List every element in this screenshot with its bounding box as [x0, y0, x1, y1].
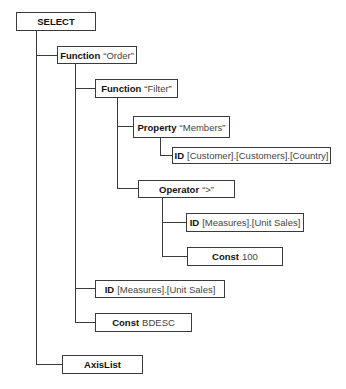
node-property-members: Property“Members”: [133, 116, 230, 138]
connector-filter-to-property: [117, 126, 133, 127]
node-const-bdesc: ConstBDESC: [95, 313, 192, 332]
connector-filter-to-operator: [117, 188, 138, 189]
connector-select-to-order: [36, 55, 57, 56]
node-keyword: Function: [101, 83, 141, 94]
connector-select-to-axislist: [36, 364, 62, 365]
node-function-order: Function“Order”: [57, 46, 137, 64]
node-select: SELECT: [16, 12, 96, 31]
connector-property-to-id: [160, 155, 172, 156]
connector-select-trunk: [36, 30, 37, 365]
node-keyword: Const: [112, 317, 139, 328]
node-keyword: ID: [190, 217, 200, 228]
connector-operator-to-id: [162, 222, 186, 223]
node-value: “Filter”: [144, 83, 171, 94]
connector-order-to-const-bdesc: [75, 322, 95, 323]
node-value: [Measures].[Unit Sales]: [202, 217, 300, 228]
node-keyword: Property: [138, 122, 177, 133]
node-keyword: ID: [105, 284, 115, 295]
node-value: “>”: [202, 184, 214, 195]
node-keyword: Const: [212, 251, 239, 262]
node-keyword: Function: [60, 50, 100, 61]
node-axislist: AxisList: [62, 355, 143, 374]
node-operator-gt: Operator“>”: [138, 180, 235, 198]
node-id-customer-country: ID[Customer].[Customers].[Country]: [172, 147, 331, 164]
node-const-100: Const100: [187, 247, 283, 266]
node-keyword: Operator: [159, 184, 199, 195]
node-value: “Members”: [180, 122, 226, 133]
connector-property-trunk: [160, 138, 161, 156]
connector-operator-to-const: [162, 256, 187, 257]
node-value: 100: [242, 251, 258, 262]
connector-order-trunk: [75, 63, 76, 323]
connector-order-to-filter: [75, 88, 95, 89]
node-keyword: AxisList: [84, 359, 121, 370]
connector-order-to-id-measures: [75, 288, 95, 289]
node-id-measures-unit-sales-2: ID[Measures].[Unit Sales]: [95, 280, 225, 298]
node-keyword: SELECT: [37, 16, 74, 27]
node-value: [Measures].[Unit Sales]: [117, 284, 215, 295]
connector-operator-trunk: [162, 197, 163, 257]
node-keyword: ID: [175, 150, 185, 161]
node-function-filter: Function“Filter”: [95, 79, 178, 98]
node-value: BDESC: [142, 317, 175, 328]
connector-filter-trunk: [117, 97, 118, 189]
node-value: [Customer].[Customers].[Country]: [187, 150, 328, 161]
node-value: “Order”: [103, 50, 134, 61]
node-id-measures-unit-sales-1: ID[Measures].[Unit Sales]: [186, 213, 304, 232]
